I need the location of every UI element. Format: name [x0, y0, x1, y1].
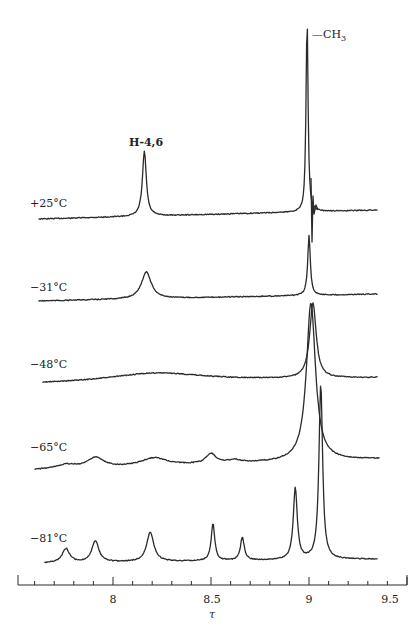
nmr-spectrum-chart: +25°C −31°C −48°C −65°C −81°C H-4,6 —CH3… — [0, 0, 420, 627]
trace-25c — [39, 29, 378, 219]
tick-label-9-5: 9.5 — [381, 593, 399, 606]
trace-label-m81c: −81°C — [30, 532, 67, 545]
trace-label-m65c: −65°C — [30, 441, 67, 454]
tick-label-9: 9 — [306, 593, 313, 606]
trace-m48c — [42, 303, 377, 383]
trace-m81c — [44, 386, 377, 562]
x-axis-ticks — [18, 575, 407, 585]
trace-m65c — [35, 304, 380, 470]
trace-label-m31c: −31°C — [30, 281, 67, 294]
ch3-ringing-artifact — [311, 178, 318, 242]
trace-m31c — [39, 235, 378, 301]
trace-label-m48c: −48°C — [30, 358, 67, 371]
x-axis-title: τ — [209, 608, 216, 621]
trace-label-25c: +25°C — [30, 197, 67, 210]
x-axis: 8 8.5 9 9.5 τ — [18, 575, 407, 621]
tick-label-8-5: 8.5 — [203, 593, 221, 606]
spectrum-traces — [35, 29, 380, 563]
tick-label-8: 8 — [110, 593, 117, 606]
peak-label-ch3: —CH3 — [312, 28, 346, 43]
peak-label-h46: H-4,6 — [129, 136, 163, 149]
